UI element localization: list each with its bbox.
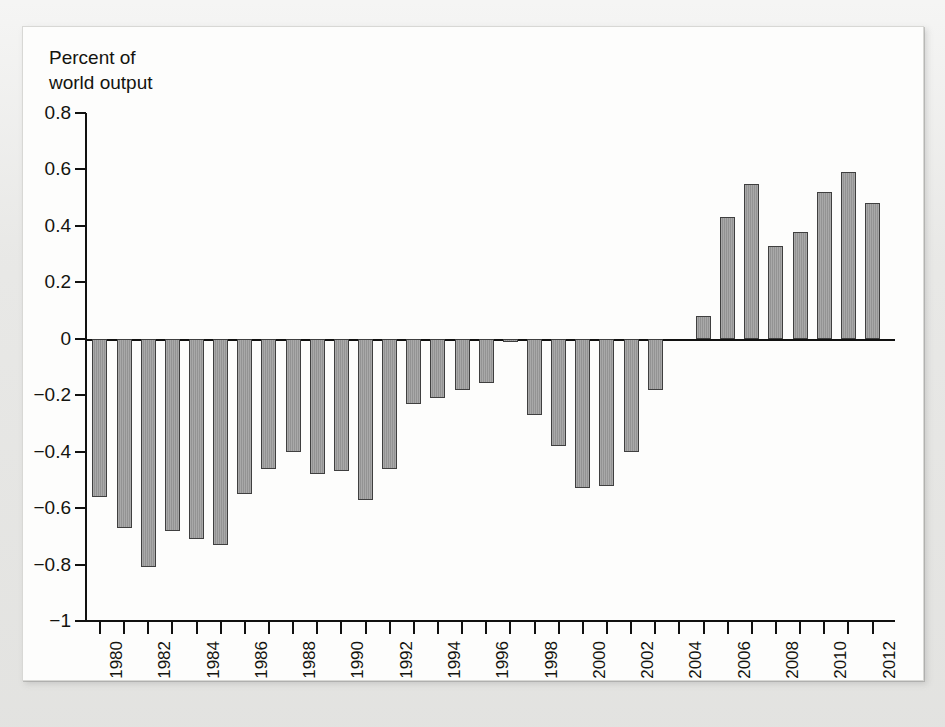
y-axis-tick-label: −1 xyxy=(49,610,71,632)
y-axis-tick-label-wrap: 0 xyxy=(23,339,71,340)
x-axis-tick xyxy=(509,622,511,634)
bar xyxy=(286,339,301,452)
x-axis-tick xyxy=(775,622,777,634)
x-axis-tick-label: 1984 xyxy=(204,641,224,679)
x-axis-tick xyxy=(582,622,584,634)
y-axis-tick-label: 0 xyxy=(60,328,71,350)
x-axis-tick xyxy=(654,622,656,634)
bar xyxy=(551,339,566,446)
x-axis-tick-label: 2012 xyxy=(880,641,900,679)
x-axis-tick xyxy=(389,622,391,634)
bar xyxy=(261,339,276,469)
x-axis-tick-label: 1988 xyxy=(300,641,320,679)
x-axis-tick xyxy=(99,622,101,634)
x-axis-tick-label: 2002 xyxy=(638,641,658,679)
bar xyxy=(334,339,349,472)
y-axis-tick-label: 0.6 xyxy=(45,158,71,180)
x-axis-tick xyxy=(437,622,439,634)
bar xyxy=(841,172,856,339)
x-axis-tick xyxy=(606,622,608,634)
x-axis-tick-label: 1994 xyxy=(445,641,465,679)
y-axis-tick xyxy=(75,507,86,509)
x-axis-tick xyxy=(244,622,246,634)
x-axis-tick xyxy=(196,622,198,634)
bar xyxy=(189,339,204,539)
bar xyxy=(358,339,373,500)
y-axis-tick-label: −0.2 xyxy=(33,384,71,406)
x-axis-tick xyxy=(171,622,173,634)
y-axis-tick-label-wrap: 0.2 xyxy=(23,282,71,283)
y-axis-tick-label-wrap: 0.6 xyxy=(23,169,71,170)
bar xyxy=(865,203,880,338)
x-axis-tick xyxy=(799,622,801,634)
y-axis-tick-label: −0.8 xyxy=(33,554,71,576)
x-axis-tick-label: 2006 xyxy=(735,641,755,679)
x-axis-tick xyxy=(268,622,270,634)
bar xyxy=(310,339,325,474)
x-axis-tick-label: 2004 xyxy=(686,641,706,679)
bar xyxy=(599,339,614,486)
x-axis-tick-label: 1996 xyxy=(493,641,513,679)
bar xyxy=(165,339,180,531)
bar xyxy=(720,217,735,338)
y-axis-tick-label-wrap: −0.8 xyxy=(23,565,71,566)
y-axis-tick xyxy=(75,168,86,170)
x-axis-tick xyxy=(872,622,874,634)
bar xyxy=(527,339,542,415)
y-axis-tick-label: −0.4 xyxy=(33,441,71,463)
y-axis-tick-label: 0.8 xyxy=(45,102,71,124)
x-axis-tick-label: 1982 xyxy=(155,641,175,679)
y-axis-tick-label-wrap: −0.4 xyxy=(23,452,71,453)
x-axis-tick-label: 1980 xyxy=(107,641,127,679)
chart-figure-panel: Percent of world output 0.80.60.40.20−0.… xyxy=(22,26,924,681)
y-axis-tick-label-wrap: −0.2 xyxy=(23,395,71,396)
bar xyxy=(648,339,663,390)
x-axis-tick xyxy=(630,622,632,634)
bar xyxy=(141,339,156,568)
y-axis-tick-label: 0.4 xyxy=(45,215,71,237)
x-axis-tick-label: 1986 xyxy=(252,641,272,679)
x-axis-tick xyxy=(413,622,415,634)
bar xyxy=(213,339,228,545)
y-axis-tick xyxy=(75,112,86,114)
y-axis-tick-label: −0.6 xyxy=(33,497,71,519)
bar xyxy=(793,232,808,339)
bar xyxy=(696,316,711,339)
x-axis-tick xyxy=(220,622,222,634)
y-axis-tick xyxy=(75,394,86,396)
y-axis-tick-label-wrap: −1 xyxy=(23,621,71,622)
x-axis-tick xyxy=(316,622,318,634)
bar xyxy=(430,339,445,398)
y-axis-tick-label-wrap: 0.8 xyxy=(23,113,71,114)
x-axis-tick xyxy=(365,622,367,634)
x-axis-tick xyxy=(485,622,487,634)
y-axis-tick xyxy=(75,225,86,227)
x-axis-tick xyxy=(751,622,753,634)
x-axis-tick-label: 2000 xyxy=(590,641,610,679)
y-axis-tick xyxy=(75,281,86,283)
y-axis-tick-label-wrap: 0.4 xyxy=(23,226,71,227)
bar xyxy=(768,246,783,339)
bar xyxy=(624,339,639,452)
x-axis-tick xyxy=(461,622,463,634)
x-axis-tick xyxy=(292,622,294,634)
x-axis-tick-label: 2010 xyxy=(831,641,851,679)
bar xyxy=(237,339,252,494)
x-axis-tick xyxy=(123,622,125,634)
x-axis-tick xyxy=(823,622,825,634)
x-axis-tick xyxy=(534,622,536,634)
y-axis-tick-label: 0.2 xyxy=(45,271,71,293)
bar xyxy=(503,339,518,342)
bar xyxy=(455,339,470,390)
x-axis-tick-label: 1990 xyxy=(348,641,368,679)
scanned-page: a market where the different interpretat… xyxy=(0,0,945,727)
x-axis-tick xyxy=(558,622,560,634)
x-axis-tick-label: 1992 xyxy=(397,641,417,679)
y-axis-tick xyxy=(75,451,86,453)
bar xyxy=(817,192,832,339)
y-axis-tick xyxy=(75,620,86,622)
y-axis-tick xyxy=(75,564,86,566)
y-axis-line xyxy=(85,113,87,621)
bar xyxy=(117,339,132,528)
x-axis-tick xyxy=(727,622,729,634)
